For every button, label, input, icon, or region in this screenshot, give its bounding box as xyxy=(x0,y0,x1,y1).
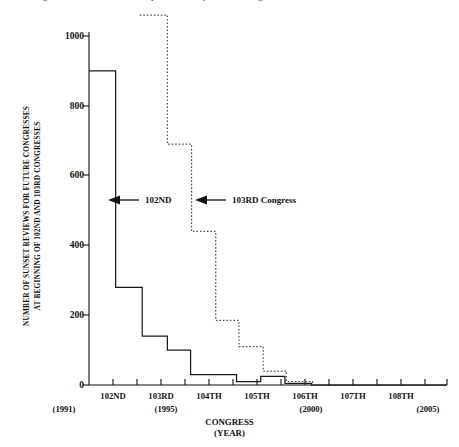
x-axis-title: CONGRESS (YEAR) xyxy=(0,417,459,439)
annot-102nd: 102ND xyxy=(142,195,172,205)
x-year-label-2000: (2000) xyxy=(300,404,323,414)
annot-103rd-label: 103RD Congress xyxy=(232,195,296,205)
x-tick-label-105th: 105TH xyxy=(244,391,269,401)
x-year-label-1991: (1991) xyxy=(53,404,76,414)
x-tick-label-106th: 106TH xyxy=(292,391,317,401)
x-year-label-2005: (2005) xyxy=(417,404,440,414)
x-tick-label-108th: 108TH xyxy=(388,391,413,401)
x-axis-title-line2: (YEAR) xyxy=(0,428,459,439)
x-tick-label-102nd: 102ND xyxy=(100,391,125,401)
y-tick-marks xyxy=(83,36,89,385)
left-arrow-icon xyxy=(195,196,207,205)
plot-area xyxy=(0,0,459,447)
x-tick-label-103rd: 103RD xyxy=(148,391,173,401)
x-year-label-1995: (1995) xyxy=(155,404,178,414)
x-axis-title-line1: CONGRESS xyxy=(0,417,459,428)
series-line-102nd xyxy=(89,71,447,385)
chart-figure: Figure 1: Sunset Review Requirements by … xyxy=(0,0,459,447)
left-arrow-icon xyxy=(108,196,120,205)
annot-102nd-label: 102ND xyxy=(145,195,172,205)
annot-103rd: 103RD Congress xyxy=(229,195,296,205)
annot-103rd-arrow-group xyxy=(195,196,226,205)
x-tick-label-104th: 104TH xyxy=(196,391,221,401)
annot-102nd-arrow-group xyxy=(108,196,139,205)
x-tick-label-107th: 107TH xyxy=(340,391,365,401)
x-tick-marks xyxy=(113,379,447,385)
